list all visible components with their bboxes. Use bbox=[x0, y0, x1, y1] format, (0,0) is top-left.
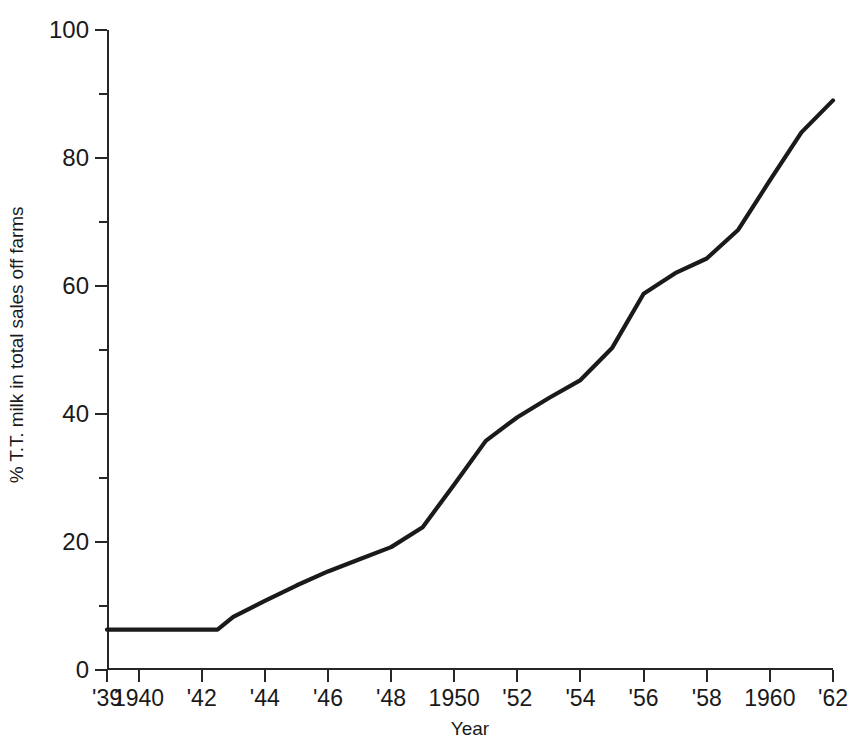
x-axis-title: Year bbox=[107, 718, 833, 740]
x-axis-tick: '39 bbox=[106, 670, 108, 682]
x-axis-tick: '56 bbox=[643, 670, 645, 682]
x-axis-tick: '48 bbox=[390, 670, 392, 682]
y-axis-tick-label: 60 bbox=[62, 274, 89, 298]
x-axis-tick: 1950 bbox=[453, 670, 455, 682]
plot-area: 020406080100 '391940'42'44'46'481950'52'… bbox=[107, 30, 833, 670]
y-axis-tick-minor bbox=[99, 221, 107, 223]
x-axis-tick-label: '58 bbox=[692, 687, 722, 710]
y-axis-tick-minor bbox=[99, 93, 107, 95]
x-axis-tick: 1940 bbox=[138, 670, 140, 682]
x-axis-tick-label: 1960 bbox=[744, 687, 795, 710]
y-axis-tick-label: 40 bbox=[62, 402, 89, 426]
x-axis-tick-label: '44 bbox=[250, 687, 280, 710]
x-axis-tick-label: '46 bbox=[313, 687, 343, 710]
y-axis-tick-major: 40 bbox=[95, 413, 107, 415]
x-axis-tick-label: 1940 bbox=[113, 687, 164, 710]
x-axis-tick: '52 bbox=[516, 670, 518, 682]
y-axis-tick-major: 100 bbox=[95, 29, 107, 31]
x-axis-tick-label: '56 bbox=[629, 687, 659, 710]
x-axis-tick-label: '42 bbox=[187, 687, 217, 710]
x-axis-tick: '46 bbox=[327, 670, 329, 682]
x-axis-tick: '58 bbox=[706, 670, 708, 682]
x-axis-tick-label: '48 bbox=[376, 687, 406, 710]
y-axis-tick-label: 80 bbox=[62, 146, 89, 170]
y-axis-tick-label: 20 bbox=[62, 530, 89, 554]
y-axis-tick-major: 80 bbox=[95, 157, 107, 159]
y-axis-tick-label: 0 bbox=[76, 658, 89, 682]
data-series-line bbox=[107, 100, 833, 629]
y-axis-tick-minor bbox=[99, 349, 107, 351]
y-axis-tick-major: 20 bbox=[95, 541, 107, 543]
y-axis-tick-minor bbox=[99, 605, 107, 607]
series-line-layer bbox=[107, 30, 833, 670]
x-axis-tick: 1960 bbox=[769, 670, 771, 682]
x-axis-tick-label: '62 bbox=[818, 687, 848, 710]
y-axis-title: % T.T. milk in total sales off farms bbox=[0, 0, 34, 690]
x-axis-tick: '62 bbox=[832, 670, 834, 682]
y-axis-tick-major: 60 bbox=[95, 285, 107, 287]
y-axis-title-text: % T.T. milk in total sales off farms bbox=[6, 207, 28, 484]
x-axis-tick: '54 bbox=[579, 670, 581, 682]
y-axis-tick-label: 100 bbox=[49, 18, 89, 42]
x-axis-tick-label: 1950 bbox=[429, 687, 480, 710]
x-axis-tick: '42 bbox=[201, 670, 203, 682]
y-axis-tick-minor bbox=[99, 477, 107, 479]
x-axis-tick-label: '54 bbox=[565, 687, 595, 710]
cut-off-header-text bbox=[0, 0, 845, 3]
x-axis-tick: '44 bbox=[264, 670, 266, 682]
x-axis-tick-label: '52 bbox=[502, 687, 532, 710]
